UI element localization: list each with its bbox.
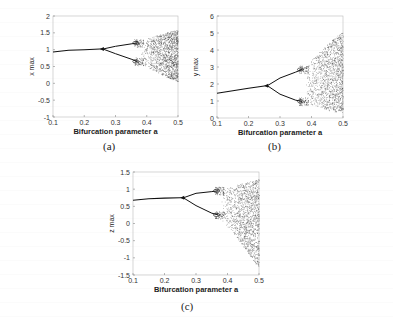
y-tick-label: -1: [124, 254, 130, 261]
lower-branch: [183, 198, 218, 215]
upper-branch: [267, 70, 302, 86]
x-tick-label: 0.1: [128, 277, 138, 284]
chaotic-region: [299, 33, 344, 113]
chaotic-region: [134, 30, 178, 82]
y-axis-label: z max: [108, 214, 115, 233]
y-tick-label: -0.5: [118, 237, 130, 244]
x-axis-label: Bifurcation parameter a: [73, 127, 158, 136]
y-tick-label: 1: [46, 46, 50, 53]
caption-a: (a): [103, 140, 115, 152]
caption-b: (b): [268, 140, 281, 152]
upper-branch: [103, 43, 137, 49]
x-tick-label: 0.2: [244, 120, 254, 127]
bifurcation-plot-z: -1.5-1-0.500.511.50.10.20.30.40.5Bifurca…: [80, 160, 300, 317]
y-tick-label: 1.5: [120, 169, 130, 176]
x-tick-label: 0.1: [48, 119, 58, 126]
y-tick-label: 2: [210, 81, 214, 88]
stable-branch: [133, 198, 183, 200]
x-tick-label: 0.5: [338, 120, 348, 127]
y-axis-label: y max: [192, 57, 200, 76]
upper-branch: [183, 191, 218, 198]
x-tick-label: 0.3: [275, 120, 285, 127]
x-axis-label: Bifurcation parameter a: [238, 128, 323, 137]
y-tick-label: 2: [46, 13, 50, 20]
y-tick-label: 4: [210, 47, 214, 54]
x-tick-label: 0.4: [307, 120, 317, 127]
y-tick-label: 1: [210, 98, 214, 105]
y-tick-label: 3: [210, 64, 214, 71]
y-tick-label: -0.5: [38, 97, 50, 104]
bifurcation-plot-y: 01234560.10.20.30.40.5Bifurcation parame…: [190, 0, 393, 160]
stable-branch: [217, 86, 267, 94]
x-axis-label: Bifurcation parameter a: [154, 285, 239, 294]
x-tick-label: 0.4: [223, 277, 233, 284]
y-tick-label: 5: [210, 30, 214, 37]
y-tick-label: 0: [46, 80, 50, 87]
lower-branch: [267, 86, 302, 102]
x-tick-label: 0.3: [191, 277, 201, 284]
bifurcation-plot-x: -1-0.500.511.520.10.20.30.40.5Bifurcatio…: [0, 0, 200, 160]
plot-area: [53, 16, 178, 117]
y-tick-label: 6: [210, 13, 214, 20]
x-tick-label: 0.2: [160, 277, 170, 284]
y-tick-label: 0.5: [120, 203, 130, 210]
y-axis-label: x max: [28, 57, 35, 76]
y-tick-label: 0.5: [40, 63, 50, 70]
x-tick-label: 0.1: [212, 120, 222, 127]
x-tick-label: 0.5: [173, 119, 183, 126]
stable-branch: [53, 49, 103, 52]
y-tick-label: 0: [126, 220, 130, 227]
y-tick-label: 1.5: [40, 29, 50, 36]
y-tick-label: 1: [126, 186, 130, 193]
x-tick-label: 0.5: [254, 277, 264, 284]
x-tick-label: 0.3: [111, 119, 121, 126]
x-tick-label: 0.2: [79, 119, 89, 126]
chaotic-region: [215, 179, 260, 267]
x-tick-label: 0.4: [142, 119, 152, 126]
lower-branch: [103, 49, 137, 62]
caption-c: (c): [181, 300, 193, 312]
